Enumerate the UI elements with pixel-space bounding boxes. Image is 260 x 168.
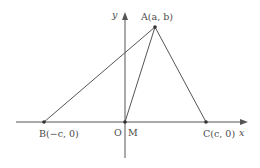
point-a: [153, 25, 157, 29]
point-m-label: M: [128, 127, 138, 138]
point-b-label: B(−c, 0): [39, 128, 79, 139]
segment-ab: [44, 27, 155, 122]
y-axis-arrow-icon: [122, 12, 128, 20]
point-a-label: A(a, b): [140, 11, 173, 22]
point-c-label: C(c, 0): [203, 128, 235, 139]
segment-am: [125, 27, 155, 122]
x-axis-label: x: [239, 127, 245, 138]
segment-ac: [155, 27, 206, 122]
x-axis-arrow-icon: [240, 119, 248, 125]
point-b: [42, 120, 46, 124]
y-axis-label: y: [111, 9, 118, 20]
coordinate-diagram: y x A(a, b) B(−c, 0) O M C(c, 0): [0, 0, 260, 168]
origin-label: O: [114, 127, 122, 138]
point-c: [204, 120, 208, 124]
point-m: [123, 120, 127, 124]
